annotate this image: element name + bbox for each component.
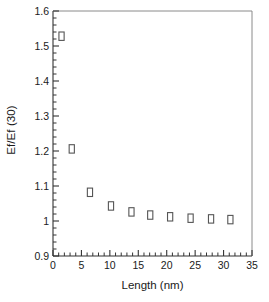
data-point-marker bbox=[87, 188, 92, 196]
data-point-marker bbox=[69, 145, 74, 153]
chart-figure: Ef/Ef (30) 0.911.11.21.31.41.51.6 051015… bbox=[0, 0, 269, 302]
plot-area bbox=[0, 0, 269, 302]
data-point-marker bbox=[228, 215, 233, 223]
data-point-marker bbox=[148, 211, 153, 219]
data-point-marker bbox=[129, 208, 134, 216]
data-point-marker bbox=[108, 202, 113, 210]
data-point-marker bbox=[188, 214, 193, 222]
data-point-marker bbox=[59, 32, 64, 40]
data-point-marker bbox=[208, 215, 213, 223]
data-point-marker bbox=[168, 213, 173, 221]
